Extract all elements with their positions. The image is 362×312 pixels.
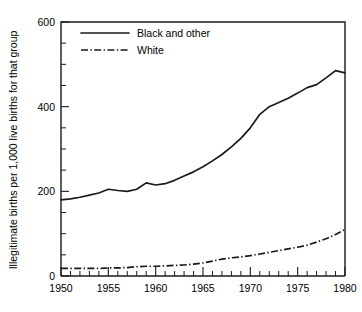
y-axis-title-text: Illegitimate births per 1,000 live birth… [7,30,19,269]
x-axis-tick-labels: 1950195519601965197019751980 [49,282,357,294]
x-tick-label: 1975 [286,282,310,294]
legend-label-black-and-other: Black and other [137,27,210,39]
plot-frame [61,22,345,276]
y-axis-title: Illegitimate births per 1,000 live birth… [7,30,19,269]
x-tick-label: 1965 [191,282,215,294]
y-tick-label: 400 [37,101,55,113]
line-chart: 0200400600 1950195519601965197019751980 … [0,0,362,312]
data-series-group [61,71,345,269]
x-tick-label: 1955 [97,282,121,294]
series-line-white [61,229,345,268]
legend-label-white: White [137,44,164,56]
x-tick-label: 1950 [49,282,73,294]
series-line-black-and-other [61,71,345,200]
y-tick-label: 200 [37,185,55,197]
x-tick-label: 1980 [333,282,357,294]
y-axis-tick-labels: 0200400600 [37,16,55,282]
y-tick-label: 0 [49,270,55,282]
y-tick-label: 600 [37,16,55,28]
axis-frame [61,22,345,276]
x-tick-label: 1970 [239,282,263,294]
x-tick-label: 1960 [144,282,168,294]
chart-container: 0200400600 1950195519601965197019751980 … [0,0,362,312]
chart-legend: Black and otherWhite [81,27,210,56]
y-axis-minor-ticks [61,43,66,255]
